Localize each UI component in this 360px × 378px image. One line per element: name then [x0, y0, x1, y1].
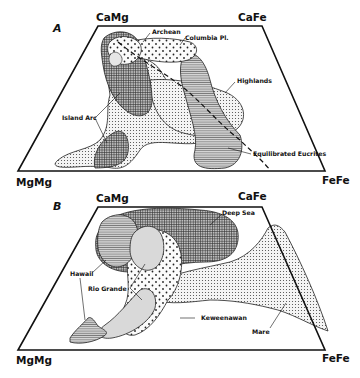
pyroxene-quadrilateral-figure: A CaMg CaFe MgMg FeFe Archean Columbia P…: [0, 0, 360, 378]
label-highlands: Highlands: [237, 77, 272, 85]
panel-b-label: B: [53, 200, 61, 213]
corner-label-fefe: FeFe: [322, 352, 350, 364]
corner-label-cafe: CaFe: [238, 190, 267, 202]
label-hawaii: Hawaii: [70, 270, 94, 277]
corner-label-camg: CaMg: [96, 192, 129, 204]
corner-label-mgmg: MgMg: [16, 354, 52, 366]
panel-b: B CaMg CaFe MgMg FeFe Deep Sea Hawaii Ri…: [16, 190, 350, 366]
label-archean: Archean: [152, 28, 181, 35]
hawaii-lower-blob: [70, 318, 106, 344]
corner-label-cafe: CaFe: [238, 11, 267, 23]
label-keweenawan: Keweenawan: [201, 314, 247, 321]
label-mare: Mare: [252, 328, 270, 335]
label-equilibrated-eucrites: Equilibrated Eucrites: [253, 150, 326, 158]
panel-a-label: A: [52, 22, 62, 35]
label-rio-grande: Rio Grande: [88, 285, 127, 292]
corner-label-mgmg: MgMg: [16, 176, 52, 188]
archean-light-inner: [109, 52, 122, 66]
corner-label-fefe: FeFe: [322, 174, 350, 186]
label-columbia-plateau: Columbia Pl.: [185, 34, 229, 41]
panel-a: A CaMg CaFe MgMg FeFe Archean Columbia P…: [16, 11, 350, 188]
corner-label-camg: CaMg: [96, 11, 129, 23]
label-island-arc: Island Arc: [62, 114, 97, 121]
rio-grande-field: [130, 226, 164, 270]
label-deep-sea: Deep Sea: [222, 209, 255, 217]
